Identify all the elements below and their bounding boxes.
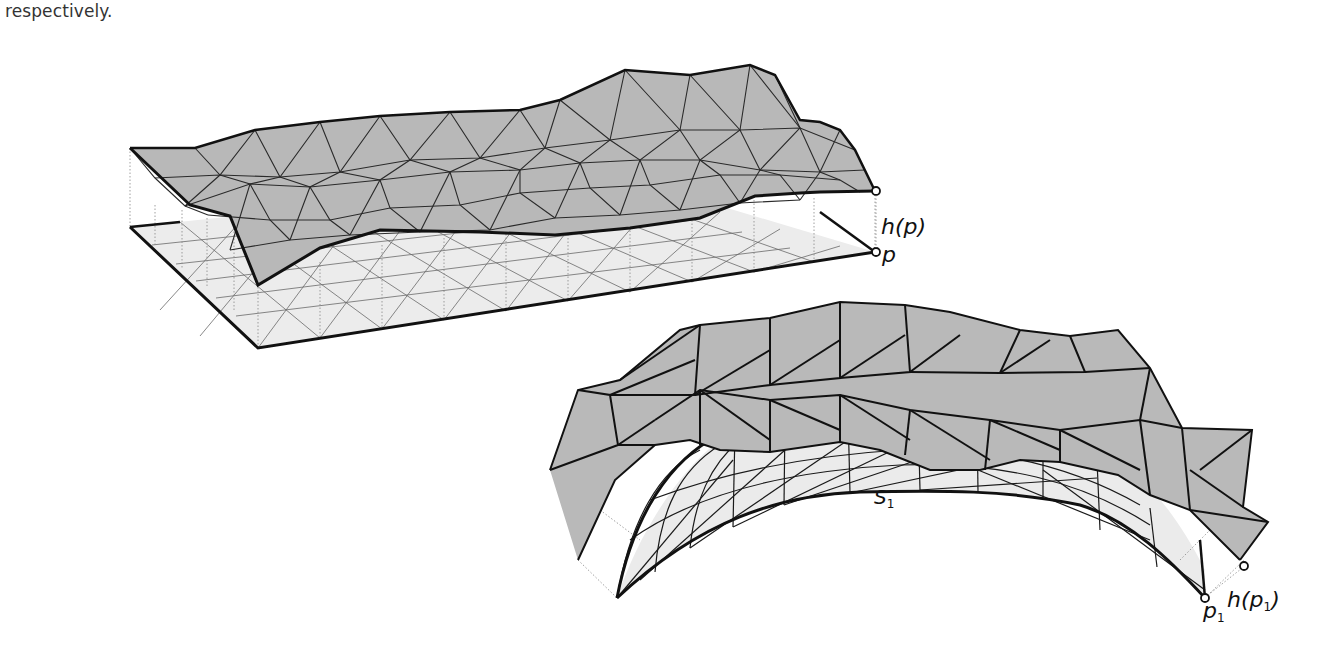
lifted-point-label: h(p) xyxy=(881,214,926,239)
lifted-point-1-label: h(p1) xyxy=(1227,587,1280,614)
lifted-point-marker xyxy=(872,187,880,195)
lifted-point-1-marker xyxy=(1240,562,1248,570)
curved-heightfield-panel: S1 h(p1) p1 xyxy=(550,302,1280,625)
figure: h(p) p xyxy=(0,0,1318,651)
planar-heightfield-panel: h(p) p xyxy=(130,65,926,348)
base-point-1-label: p1 xyxy=(1202,598,1225,625)
base-point-marker xyxy=(872,248,880,256)
base-point-label: p xyxy=(881,242,896,267)
